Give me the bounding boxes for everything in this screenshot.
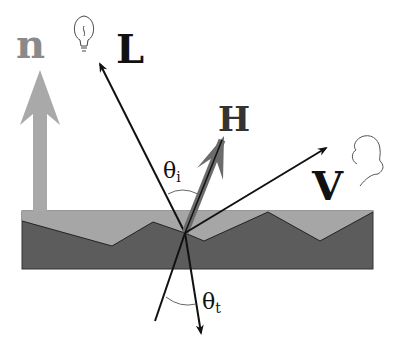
microfacet-diagram: n L θi H V θt <box>0 0 398 353</box>
lightbulb-icon <box>74 16 93 51</box>
light-vector <box>100 64 185 233</box>
theta-t-arc <box>166 297 196 305</box>
theta-i-label: θi <box>163 158 181 185</box>
theta-t-label: θt <box>202 289 221 316</box>
normal-label: n <box>16 20 45 67</box>
view-label: V <box>311 162 344 209</box>
viewer-head-icon <box>352 136 383 186</box>
surface <box>22 211 373 269</box>
theta-i-arc <box>168 190 198 194</box>
normal-arrow <box>20 70 60 211</box>
half-label: H <box>218 99 250 139</box>
light-label: L <box>116 25 144 72</box>
